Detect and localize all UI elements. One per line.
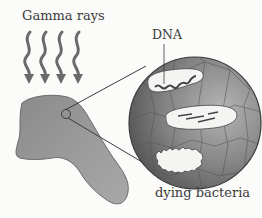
wavy-arrow-icon xyxy=(25,32,79,76)
magnified-circle-icon xyxy=(129,57,262,190)
meat-piece-icon xyxy=(16,95,128,204)
dying-bacteria-label: dying bacteria xyxy=(155,185,250,200)
bacterium-icon xyxy=(156,147,203,173)
gamma-rays-label: Gamma rays xyxy=(22,8,105,23)
arrowheads xyxy=(24,74,83,84)
dna-label: DNA xyxy=(152,27,182,42)
